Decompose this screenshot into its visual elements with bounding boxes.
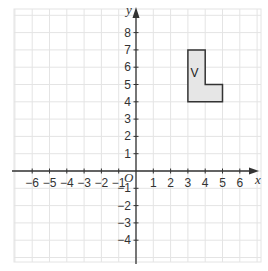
grid-border — [14, 9, 261, 262]
y-tick-label: 5 — [124, 78, 131, 92]
x-tick-label: −2 — [95, 176, 109, 190]
x-tick-label: 4 — [202, 176, 209, 190]
x-tick-label: 6 — [236, 176, 243, 190]
x-tick-label: −4 — [60, 176, 74, 190]
shape-label: V — [190, 66, 198, 80]
y-axis-label: y — [124, 2, 132, 17]
grid-lines — [14, 9, 261, 262]
y-tick-label: 7 — [124, 43, 131, 57]
y-tick-label: 3 — [124, 112, 131, 126]
x-tick-label: −5 — [43, 176, 57, 190]
y-tick-label: 6 — [124, 60, 131, 74]
y-tick-label: −4 — [117, 233, 131, 247]
x-axis-label: x — [254, 172, 261, 187]
origin-label: O — [124, 170, 134, 185]
y-tick-label: 4 — [124, 95, 131, 109]
x-tick-label: −6 — [25, 176, 39, 190]
y-tick-label: 1 — [124, 147, 131, 161]
y-tick-label: 8 — [124, 26, 131, 40]
y-tick-label: −3 — [117, 216, 131, 230]
x-tick-label: 3 — [185, 176, 192, 190]
x-tick-label: 2 — [167, 176, 174, 190]
coordinate-plane: V −6−5−4−3−2−1123456 87654321−1−2−3−4 x … — [0, 0, 268, 271]
x-tick-label: 5 — [219, 176, 226, 190]
y-tick-label: −2 — [117, 199, 131, 213]
y-tick-label: 2 — [124, 129, 131, 143]
x-tick-label: −3 — [77, 176, 91, 190]
x-tick-label: 1 — [150, 176, 157, 190]
x-axis-ticks: −6−5−4−3−2−1123456 — [25, 169, 243, 191]
